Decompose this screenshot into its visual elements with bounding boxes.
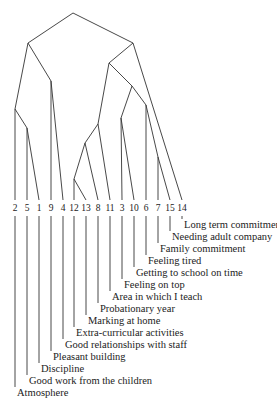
leaf-label-4: Good relationships with staff <box>65 339 188 350</box>
leaf-label-9: Pleasant building <box>53 351 126 362</box>
branch-n_7_15-to-leaf-15 <box>158 157 170 200</box>
leaf-labels: AtmosphereGood work from the childrenDis… <box>17 219 277 398</box>
branch-r_sub-to-n_3_10_6_7_15 <box>109 63 132 86</box>
branch-n_12_13_8-to-n_12_13 <box>74 143 85 179</box>
branch-n_6_7_15-to-n_7_15 <box>146 105 158 157</box>
leaf-label-6: Feeling tired <box>148 255 202 266</box>
branch-right-to-leaf-14 <box>133 43 182 200</box>
branch-n_3_10-to-leaf-3 <box>121 118 122 200</box>
leaf-number-5: 5 <box>25 203 30 213</box>
branch-n_3_10-to-leaf-10 <box>121 118 134 200</box>
leaf-number-12: 12 <box>69 203 79 213</box>
leaf-number-10: 10 <box>129 203 139 213</box>
leaf-label-2: Atmosphere <box>17 387 69 398</box>
leaf-label-15: Needing adult company <box>172 231 273 242</box>
leaf-label-5: Good work from the children <box>29 375 153 386</box>
branch-root-to-left <box>28 13 73 43</box>
leaf-label-14: Long term commitment <box>184 219 277 230</box>
leaf-number-15: 15 <box>165 203 175 213</box>
branch-n_2_5_1-to-n_5_1 <box>15 109 27 128</box>
branch-n_3_10_6_7_15-to-n_3_10 <box>121 86 132 118</box>
branch-right-to-r_sub <box>109 43 133 63</box>
branch-n_9_4-to-leaf-4 <box>51 81 63 200</box>
leaf-number-6: 6 <box>144 203 149 213</box>
branch-left-to-n_2_5_1 <box>15 43 28 109</box>
dendrogram-branches <box>15 13 182 200</box>
branch-root-to-right <box>73 13 133 43</box>
leaf-number-4: 4 <box>61 203 66 213</box>
leaf-number-1: 1 <box>37 203 42 213</box>
leaf-label-11: Area in which I teach <box>112 291 203 302</box>
branch-n_5_1-to-leaf-1 <box>27 128 39 200</box>
leaf-number-7: 7 <box>156 203 161 213</box>
leaf-label-3: Feeling on top <box>124 279 185 290</box>
leaf-number-8: 8 <box>96 203 101 213</box>
leaf-number-3: 3 <box>120 203 125 213</box>
branch-n_12_13_8_11-to-n_12_13_8 <box>85 124 98 143</box>
branch-n_12_13_8-to-leaf-8 <box>85 143 98 200</box>
leaf-number-9: 9 <box>49 203 54 213</box>
leaf-label-12: Extra-curricular activities <box>76 327 184 338</box>
leaf-label-7: Family commitment <box>160 243 246 254</box>
leaf-numbers: 251941213811310671514 <box>13 203 187 213</box>
leaf-number-14: 14 <box>177 203 187 213</box>
branch-n_12_13_8_11-to-leaf-11 <box>98 124 110 200</box>
leaf-number-13: 13 <box>81 203 91 213</box>
dendrogram: 251941213811310671514 AtmosphereGood wor… <box>0 0 277 409</box>
leaf-label-13: Marking at home <box>88 315 161 326</box>
leaf-label-1: Discipline <box>41 363 84 374</box>
leaf-label-8: Probationary year <box>100 303 175 314</box>
branch-left-to-n_9_4 <box>28 43 51 81</box>
branch-n_3_10_6_7_15-to-n_6_7_15 <box>132 86 146 105</box>
branch-n_12_13-to-leaf-13 <box>74 179 86 200</box>
leaf-label-10: Getting to school on time <box>136 267 243 278</box>
branch-r_sub-to-n_12_13_8_11 <box>98 63 109 124</box>
leaf-number-11: 11 <box>105 203 114 213</box>
leaf-number-2: 2 <box>13 203 18 213</box>
